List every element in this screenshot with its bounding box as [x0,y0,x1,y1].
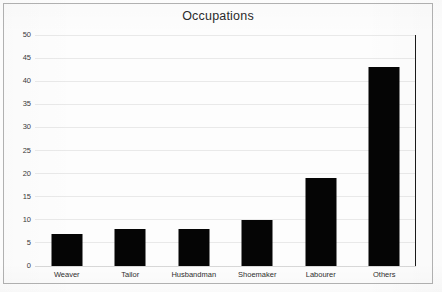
y-axis-tick-label: 30 [9,124,31,132]
x-axis-tick-label: Shoemaker [238,271,276,279]
bar[interactable] [305,178,336,266]
bar-slot [226,35,290,266]
bar[interactable] [115,229,146,266]
bar-slot [99,35,163,266]
bars [35,35,416,266]
y-axis-tick-label: 35 [9,101,31,109]
y-axis-tick-label: 15 [9,193,31,201]
y-axis: 05101520253035404550 [4,35,31,266]
x-axis-tick-label: Husbandman [171,271,216,279]
bar-slot [289,35,353,266]
y-axis-tick-label: 5 [9,239,31,247]
y-axis-tick-label: 50 [9,31,31,39]
chart-title: Occupations [4,9,432,23]
bar-slot [353,35,417,266]
y-axis-tick-label: 0 [9,262,31,270]
y-axis-tick-label: 45 [9,54,31,62]
bar-slot [35,35,99,266]
y-axis-tick-label: 20 [9,170,31,178]
plot-area [35,35,416,266]
x-axis-tick-label: Labourer [306,271,336,279]
bar[interactable] [178,229,209,266]
x-axis: WeaverTailorHusbandmanShoemakerLabourerO… [35,268,416,284]
bar[interactable] [369,67,400,266]
bar[interactable] [242,220,273,266]
bar-slot [162,35,226,266]
x-axis-tick-label: Weaver [54,271,80,279]
x-axis-tick-label: Others [373,271,396,279]
chart-frame: Occupations 05101520253035404550 WeaverT… [3,3,433,284]
y-axis-tick-label: 40 [9,77,31,85]
y-axis-tick-label: 25 [9,147,31,155]
x-axis-tick-label: Tailor [121,271,139,279]
bar[interactable] [51,234,82,266]
y-axis-tick-label: 10 [9,216,31,224]
